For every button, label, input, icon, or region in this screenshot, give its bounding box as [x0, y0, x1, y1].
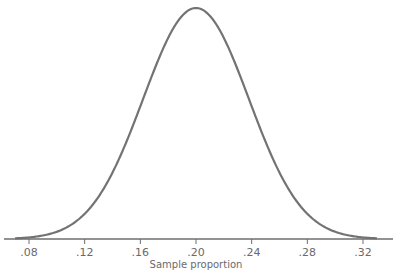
x-tick-label: .28 — [299, 246, 317, 259]
normal-curve — [15, 8, 377, 238]
x-tick-label: .16 — [132, 246, 150, 259]
x-axis-title: Sample proportion — [150, 259, 243, 270]
x-axis-ticks: .08.12.16.20.24.28.32 — [20, 239, 372, 259]
normal-distribution-chart: .08.12.16.20.24.28.32 Sample proportion — [0, 0, 400, 273]
x-tick-label: .12 — [76, 246, 94, 259]
x-tick-label: .32 — [354, 246, 372, 259]
x-tick-label: .20 — [187, 246, 205, 259]
x-tick-label: .24 — [243, 246, 261, 259]
x-tick-label: .08 — [20, 246, 38, 259]
